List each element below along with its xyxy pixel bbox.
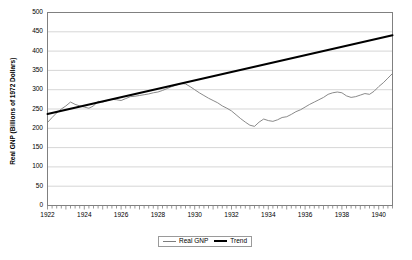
y-tick-label: 450 — [21, 28, 43, 35]
y-tick-label: 350 — [21, 67, 43, 74]
y-tick-label: 200 — [21, 125, 43, 132]
x-tick-label: 1938 — [329, 212, 355, 219]
legend-swatch-trend-icon — [214, 240, 227, 242]
x-tick-label: 1922 — [35, 212, 61, 219]
y-tick-label: 250 — [21, 106, 43, 113]
x-tick-label: 1924 — [71, 212, 97, 219]
x-tick-label: 1928 — [145, 212, 171, 219]
gridlines — [48, 32, 393, 186]
x-tick-label: 1926 — [108, 212, 134, 219]
x-tick-label: 1932 — [219, 212, 245, 219]
x-axis-ticks — [48, 206, 393, 210]
real-gnp-line — [48, 73, 393, 126]
y-tick-label: 50 — [21, 183, 43, 190]
y-tick-label: 150 — [21, 144, 43, 151]
legend-swatch-real-gnp-icon — [163, 241, 176, 242]
x-tick-label: 1934 — [255, 212, 281, 219]
x-tick-label: 1936 — [292, 212, 318, 219]
y-tick-label: 100 — [21, 163, 43, 170]
legend-label-trend: Trend — [230, 238, 247, 245]
y-tick-label: 400 — [21, 48, 43, 55]
x-tick-label: 1930 — [182, 212, 208, 219]
y-axis-title: Real GNP (Billions of 1972 Dollars) — [10, 41, 17, 181]
legend-item-real-gnp: Real GNP — [163, 238, 208, 245]
y-tick-label: 500 — [21, 9, 43, 16]
chart-legend: Real GNP Trend — [158, 236, 252, 247]
y-tick-label: 0 — [21, 202, 43, 209]
y-tick-label: 300 — [21, 86, 43, 93]
trend-line — [48, 35, 393, 114]
x-tick-label: 1940 — [366, 212, 392, 219]
plot-canvas — [0, 0, 412, 260]
legend-label-real-gnp: Real GNP — [179, 238, 208, 245]
legend-item-trend: Trend — [214, 238, 247, 245]
gnp-trend-chart: Real GNP (Billions of 1972 Dollars) 0501… — [0, 0, 412, 260]
